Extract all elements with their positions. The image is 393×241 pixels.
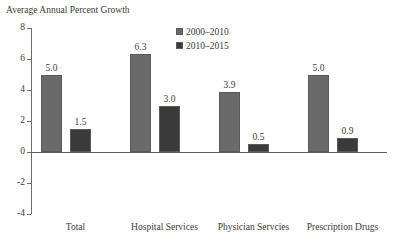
plot-area: 86420-2-4 5.01.56.33.03.90.55.00.9: [31, 28, 387, 214]
bar-value-label: 0.9: [342, 126, 354, 136]
legend-label: 2010–2015: [186, 41, 229, 51]
chart-legend: 2000–20102010–2015: [176, 25, 229, 53]
bar-rect: [308, 75, 329, 153]
bar-group: 5.01.5: [31, 28, 120, 214]
legend-swatch-icon: [176, 42, 183, 49]
bar: 5.0: [41, 75, 62, 153]
bar-rect: [70, 129, 91, 152]
bar: 1.5: [70, 129, 91, 152]
legend-entry: 2010–2015: [176, 39, 229, 52]
bar: 6.3: [130, 54, 151, 152]
category-label: Total: [66, 222, 85, 233]
y-tick-label: -4: [17, 209, 25, 219]
bar-rect: [248, 144, 269, 152]
bar-rect: [159, 106, 180, 153]
bar-group: 6.33.0: [120, 28, 209, 214]
bar: 0.9: [337, 138, 358, 152]
bar-value-label: 0.5: [253, 132, 265, 142]
bar-value-label: 5.0: [313, 63, 325, 73]
y-tick-label: -2: [17, 178, 25, 188]
bar-value-label: 6.3: [135, 42, 147, 52]
bar-value-label: 3.0: [164, 94, 176, 104]
y-tick-label: 6: [20, 54, 25, 64]
bar-rect: [337, 138, 358, 152]
bar-group: 5.00.9: [298, 28, 387, 214]
legend-swatch-icon: [176, 28, 183, 35]
legend-entry: 2000–2010: [176, 25, 229, 38]
y-tick-label: 4: [20, 85, 25, 95]
y-tick-label: 2: [20, 116, 25, 126]
bar: 3.0: [159, 106, 180, 153]
tick-mark: [27, 214, 31, 215]
category-label: Physician Servcies: [218, 222, 290, 233]
y-tick-label: 0: [20, 147, 25, 157]
bar-rect: [41, 75, 62, 153]
y-tick-label: 8: [20, 23, 25, 33]
bar: 0.5: [248, 144, 269, 152]
x-axis-category-labels: TotalHospital ServicesPhysician Servcies…: [31, 222, 387, 236]
bar: 5.0: [308, 75, 329, 153]
bar-rect: [219, 92, 240, 152]
chart-figure: Exhibit 1. Personal Health Care Average …: [0, 0, 393, 241]
bar-value-label: 3.9: [224, 80, 236, 90]
category-label: Prescription Drugs: [307, 222, 379, 233]
bar-rect: [130, 54, 151, 152]
y-axis-caption: Average Annual Percent Growth: [6, 5, 130, 16]
bar-group: 3.90.5: [209, 28, 298, 214]
legend-label: 2000–2010: [186, 27, 229, 37]
bar-value-label: 5.0: [46, 63, 58, 73]
bar-value-label: 1.5: [75, 117, 87, 127]
bar: 3.9: [219, 92, 240, 152]
category-label: Hospital Services: [131, 222, 198, 233]
